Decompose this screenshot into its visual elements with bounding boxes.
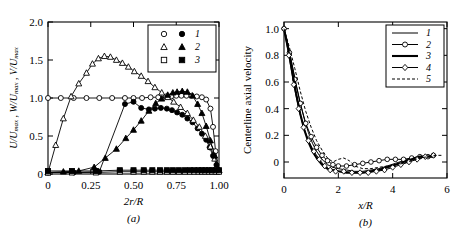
legend-item-3: 3 [194,54,200,65]
svg-text:0.50: 0.50 [124,179,144,191]
panel-a-ylabel: U/Umax , W/Umax , V/Umax [8,46,20,149]
panel-a: 00.250.500.751.0000.51.01.52.02r/R(a)U/U… [0,0,233,238]
svg-text:U/Umax , W/Umax , V/Umax: U/Umax , W/Umax , V/Umax [8,46,20,149]
svg-text:6: 6 [444,183,450,195]
svg-text:1.0: 1.0 [265,23,279,35]
svg-text:4: 4 [390,183,396,195]
svg-text:0: 0 [38,168,44,180]
svg-text:0: 0 [281,183,287,195]
legend-item-1: 1 [195,28,200,39]
svg-text:0.6: 0.6 [265,76,279,88]
panel-a-legend: 123 [148,25,216,72]
panel-b-caption: (b) [359,216,372,229]
legend-item-4: 4 [426,62,431,73]
svg-text:0.75: 0.75 [167,179,187,191]
svg-text:0.4: 0.4 [265,103,279,115]
legend-item-3: 3 [425,50,431,61]
svg-text:0: 0 [45,179,51,191]
legend-item-2: 2 [426,39,431,50]
panel-b-plot: 024600.20.40.60.81.0x/R(b)Centerline axi… [233,0,466,238]
svg-text:Centerline axial velocity: Centerline axial velocity [241,45,253,154]
panel-a-plot: 00.250.500.751.0000.51.01.52.02r/R(a)U/U… [0,0,233,238]
panel-a-caption: (a) [127,212,140,225]
series-1-filled [46,99,222,175]
svg-text:0: 0 [274,156,280,168]
svg-text:0.8: 0.8 [265,49,279,61]
legend-item-1: 1 [426,27,431,38]
svg-text:1.0: 1.0 [29,92,43,104]
svg-text:0.5: 0.5 [29,130,43,142]
svg-text:2.0: 2.0 [29,16,43,28]
figure-container: 00.250.500.751.0000.51.01.52.02r/R(a)U/U… [0,0,466,238]
panel-a-xlabel: 2r/R [124,195,144,207]
svg-text:0.2: 0.2 [265,129,279,141]
svg-text:2: 2 [336,183,342,195]
panel-b: 024600.20.40.60.81.0x/R(b)Centerline axi… [233,0,466,238]
legend-item-5: 5 [426,73,431,84]
svg-text:1.5: 1.5 [29,54,43,66]
panel-b-ylabel: Centerline axial velocity [241,45,253,154]
panel-b-legend: 12345 [386,25,444,87]
svg-text:0.25: 0.25 [81,179,101,191]
panel-b-xlabel: x/R [357,199,373,211]
series-3-filled [46,168,222,174]
svg-text:1.00: 1.00 [209,179,229,191]
legend-item-2: 2 [195,41,200,52]
